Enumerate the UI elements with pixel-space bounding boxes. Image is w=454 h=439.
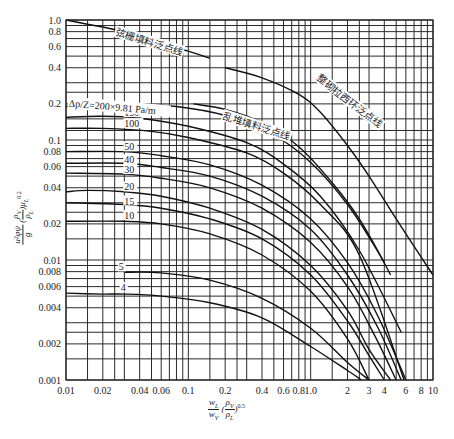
x-tick-label: 0.4 (256, 385, 269, 396)
curve-label: 4 (121, 282, 126, 293)
x-tick-label: 8 (419, 385, 424, 396)
pressure-drop-curve-10 (66, 221, 369, 380)
x-label-rho-den-sub: L (230, 415, 233, 421)
x-axis-label: wLwV (ρVρL)0.5 (208, 398, 245, 421)
y-tick-label: 0.6 (49, 41, 62, 52)
x-tick-label: 0.8 (293, 385, 306, 396)
y-tick-label: 0.4 (49, 62, 62, 73)
x-tick-label: 2 (345, 385, 350, 396)
curve-label: 30 (124, 164, 134, 175)
x-axis-ticks: 0.010.020.040.060.10.20.40.60.81.0234681… (57, 385, 438, 396)
y-label-rho-num-sub: V (16, 211, 22, 215)
curve-label: 100 (124, 118, 139, 129)
y-tick-label: 0.02 (44, 218, 62, 229)
y-tick-label: 0.06 (44, 161, 62, 172)
y-tick-label: 0.01 (44, 255, 62, 266)
curve-label: 50 (124, 141, 134, 152)
y-tick-label: 0.002 (39, 338, 62, 349)
curve-label: 15 (124, 196, 134, 207)
curve-label: 10 (124, 210, 134, 221)
y-tick-label: 0.04 (44, 182, 62, 193)
y-tick-label: 0.008 (39, 266, 62, 277)
chart-annotation: 整砌拉西环泛点线 (314, 72, 384, 131)
y-tick-label: 0.001 (39, 375, 62, 386)
x-tick-label: 0.04 (131, 385, 149, 396)
x-tick-label: 0.6 (277, 385, 290, 396)
y-label-rho-den-sub: L (28, 211, 34, 214)
pressure-drop-curve-4 (66, 293, 361, 380)
x-tick-label: 3 (367, 385, 372, 396)
x-tick-label: 0.01 (57, 385, 75, 396)
y-axis-label: u²φψg (ρVρL)μL0.2 (8, 168, 38, 268)
y-tick-label: 0.2 (49, 98, 62, 109)
x-tick-label: 0.2 (219, 385, 232, 396)
x-label-num-sub: L (215, 403, 218, 409)
y-label-exponent: 0.2 (16, 191, 22, 199)
x-tick-label: 10 (428, 385, 438, 396)
y-label-denominator: g (24, 233, 33, 238)
flooding-pressure-drop-chart: 0.010.020.040.060.10.20.40.60.81.0234681… (0, 0, 454, 439)
x-tick-label: 1.0 (304, 385, 317, 396)
y-tick-label: 0.004 (39, 302, 62, 313)
chart-annotation: Δp/Z=200×9.81 Pa/m (68, 98, 156, 117)
flooding-line (225, 68, 433, 275)
chart-curves (66, 20, 433, 380)
y-axis-ticks: 1.00.80.60.40.20.10.080.060.040.020.010.… (39, 15, 62, 386)
y-tick-label: 1.0 (49, 15, 62, 26)
x-label-exponent: 0.5 (238, 403, 246, 409)
y-label-mu-sub: L (23, 199, 29, 202)
y-tick-label: 0.006 (39, 281, 62, 292)
curve-label: 20 (124, 181, 134, 192)
y-label-mu: μ (17, 202, 27, 207)
y-tick-label: 0.1 (49, 135, 62, 146)
y-tick-label: 0.8 (49, 26, 62, 37)
x-tick-label: 4 (382, 385, 387, 396)
x-label-rho-num-sub: V (230, 403, 234, 409)
pressure-drop-curve-100 (66, 128, 404, 380)
x-tick-label: 0.02 (94, 385, 112, 396)
x-label-den-sub: V (215, 415, 219, 421)
x-tick-label: 6 (403, 385, 408, 396)
y-tick-label: 0.08 (44, 146, 62, 157)
x-tick-label: 0.1 (182, 385, 195, 396)
curve-label: 5 (119, 261, 124, 272)
x-tick-label: 0.06 (152, 385, 170, 396)
